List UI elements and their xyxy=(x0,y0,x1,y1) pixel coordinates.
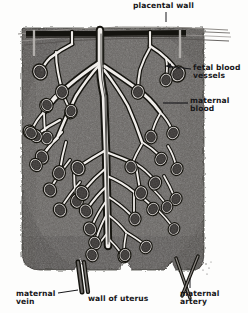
leader-maternal-vein xyxy=(58,290,78,293)
placenta-diagram: placental wall fetal blood vessels mater… xyxy=(0,0,248,313)
label-maternal-artery: maternal artery xyxy=(180,290,220,307)
maternal-vein-vessel xyxy=(78,262,88,292)
label-wall-of-uterus: wall of uterus xyxy=(88,295,148,303)
label-fetal-blood-vessels: fetal blood vessels xyxy=(193,64,240,81)
label-maternal-vein: maternal vein xyxy=(16,290,56,307)
label-placental-wall: placental wall xyxy=(133,2,194,10)
label-maternal-blood: maternal blood xyxy=(190,97,230,114)
diagram-canvas xyxy=(0,0,248,313)
